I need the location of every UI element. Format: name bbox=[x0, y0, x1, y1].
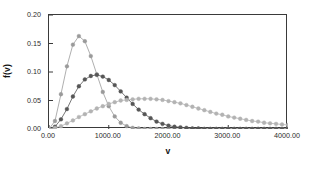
data-point-marker bbox=[77, 34, 81, 38]
data-point-marker bbox=[185, 126, 189, 129]
x-tick-label: 0.00 bbox=[41, 131, 55, 140]
data-point-marker bbox=[131, 126, 135, 129]
data-point-marker bbox=[143, 127, 147, 129]
data-point-marker bbox=[83, 39, 87, 43]
data-point-marker bbox=[232, 116, 236, 120]
chart-canvas bbox=[49, 15, 288, 129]
data-point-marker bbox=[155, 120, 159, 124]
data-point-marker bbox=[143, 112, 147, 116]
data-point-marker bbox=[191, 105, 195, 109]
chart-root: 0.000.050.100.150.20 0.001000.002000.003… bbox=[0, 0, 314, 172]
data-point-marker bbox=[280, 127, 284, 129]
data-point-marker bbox=[71, 95, 75, 99]
y-axis-title: f(v) bbox=[2, 64, 12, 78]
data-point-marker bbox=[161, 98, 165, 102]
data-point-marker bbox=[214, 112, 218, 116]
data-point-marker bbox=[119, 89, 123, 93]
data-point-marker bbox=[286, 127, 288, 129]
data-point-marker bbox=[244, 127, 248, 129]
data-point-marker bbox=[262, 127, 266, 129]
data-point-marker bbox=[274, 127, 278, 129]
data-point-marker bbox=[59, 117, 63, 121]
data-point-marker bbox=[53, 126, 57, 129]
data-point-marker bbox=[250, 127, 254, 129]
data-point-marker bbox=[89, 54, 93, 58]
data-point-marker bbox=[262, 121, 266, 125]
data-point-marker bbox=[155, 97, 159, 101]
data-point-marker bbox=[238, 127, 242, 129]
data-point-marker bbox=[131, 97, 135, 101]
data-point-marker bbox=[155, 127, 159, 129]
data-point-marker bbox=[143, 97, 147, 101]
data-point-marker bbox=[173, 100, 177, 104]
data-point-marker bbox=[256, 127, 260, 129]
data-point-marker bbox=[137, 108, 141, 112]
data-point-marker bbox=[208, 110, 212, 114]
data-point-marker bbox=[167, 99, 171, 103]
data-point-marker bbox=[131, 102, 135, 106]
data-point-marker bbox=[232, 127, 236, 129]
data-point-marker bbox=[137, 97, 141, 101]
data-point-marker bbox=[101, 104, 105, 108]
data-point-marker bbox=[274, 122, 278, 126]
data-point-marker bbox=[149, 97, 153, 101]
data-point-marker bbox=[196, 107, 200, 111]
data-point-marker bbox=[119, 121, 123, 125]
data-point-marker bbox=[280, 123, 284, 127]
data-point-marker bbox=[238, 117, 242, 121]
data-point-marker bbox=[59, 124, 63, 128]
data-point-marker bbox=[65, 121, 69, 125]
x-tick-label: 1000.00 bbox=[95, 131, 121, 140]
data-point-marker bbox=[220, 127, 224, 129]
data-point-marker bbox=[113, 83, 117, 87]
data-point-marker bbox=[167, 124, 171, 128]
data-point-marker bbox=[268, 121, 272, 125]
data-point-marker bbox=[65, 107, 69, 111]
data-point-marker bbox=[208, 127, 212, 129]
plot-area bbox=[48, 14, 287, 128]
data-point-marker bbox=[149, 127, 153, 129]
data-point-marker bbox=[256, 120, 260, 124]
data-point-marker bbox=[71, 43, 75, 47]
x-tick-label: 2000.00 bbox=[155, 131, 181, 140]
data-point-marker bbox=[220, 113, 224, 117]
data-point-marker bbox=[107, 78, 111, 82]
data-point-marker bbox=[119, 99, 123, 103]
data-point-marker bbox=[77, 84, 81, 88]
data-point-marker bbox=[161, 122, 165, 126]
data-point-marker bbox=[185, 103, 189, 107]
data-point-marker bbox=[244, 118, 248, 122]
data-point-marker bbox=[65, 64, 69, 68]
data-point-marker bbox=[286, 123, 288, 127]
data-point-marker bbox=[226, 127, 230, 129]
data-point-marker bbox=[95, 107, 99, 111]
data-point-marker bbox=[101, 90, 105, 94]
x-tick-label: 4000.00 bbox=[274, 131, 300, 140]
data-point-marker bbox=[191, 127, 195, 129]
data-point-marker bbox=[202, 127, 206, 129]
data-point-marker bbox=[125, 124, 129, 128]
data-point-marker bbox=[161, 127, 165, 129]
data-point-marker bbox=[113, 115, 117, 119]
data-point-marker bbox=[268, 127, 272, 129]
data-point-marker bbox=[214, 127, 218, 129]
data-point-marker bbox=[83, 112, 87, 116]
data-point-marker bbox=[89, 109, 93, 113]
data-point-marker bbox=[71, 119, 75, 123]
data-point-marker bbox=[107, 102, 111, 106]
data-point-marker bbox=[83, 78, 87, 82]
data-point-marker bbox=[179, 125, 183, 129]
data-point-marker bbox=[137, 127, 141, 129]
x-axis-title: v bbox=[166, 146, 171, 156]
data-point-marker bbox=[77, 115, 81, 119]
data-point-marker bbox=[250, 119, 254, 123]
data-point-marker bbox=[196, 127, 200, 129]
x-tick-label: 3000.00 bbox=[214, 131, 240, 140]
data-point-marker bbox=[89, 74, 93, 78]
data-point-marker bbox=[101, 75, 105, 79]
data-point-marker bbox=[226, 115, 230, 119]
data-point-marker bbox=[113, 100, 117, 104]
data-point-marker bbox=[59, 92, 63, 96]
data-point-marker bbox=[173, 125, 177, 129]
data-point-marker bbox=[95, 73, 99, 77]
